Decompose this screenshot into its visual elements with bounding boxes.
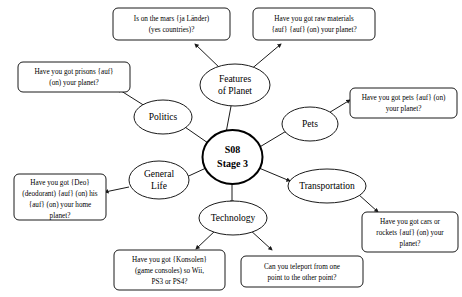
- leaf-text-raw-materials-line1: Have you got raw materials: [274, 15, 354, 23]
- edge-general-life-deodorant: [105, 187, 129, 192]
- branch-label-politics: Politics: [149, 112, 178, 122]
- branch-node-transportation[interactable]: Transportation: [288, 169, 366, 203]
- leaf-box-consoles[interactable]: Have you got {Konsolen} (game consoles) …: [114, 250, 225, 290]
- leaf-shape-mars-countries[interactable]: [113, 8, 230, 40]
- branch-shape-features-of-planet[interactable]: [200, 64, 270, 106]
- leaf-text-prisons-line2: (on) your planet?: [49, 79, 99, 87]
- leaf-box-cars-rockets[interactable]: Have you got cars or rockets {auf} (on) …: [362, 212, 458, 252]
- leaf-box-mars-countries[interactable]: Is on the mars {ja Länder) (yes countrie…: [113, 8, 230, 40]
- mind-map-canvas: S08 Stage 3 Features of Planet Politics …: [0, 0, 462, 297]
- branch-label-features-of-planet-line2: of Planet: [218, 86, 252, 96]
- leaf-text-consoles-line1: Have you got {Konsolen}: [132, 256, 207, 264]
- leaf-text-deodorant-line2: (deodorant) {auf} (on) his: [22, 190, 98, 198]
- branch-label-transportation: Transportation: [299, 181, 355, 191]
- branch-label-general-life-line1: General: [144, 169, 174, 179]
- leaf-text-prisons-line1: Have you got prisons {auf}: [34, 68, 113, 76]
- leaf-box-pets-question[interactable]: Have you got pets {auf} (on) your planet…: [350, 88, 457, 118]
- leaf-text-cars-rockets-line3: planet?: [400, 240, 421, 248]
- branch-node-general-life[interactable]: General Life: [129, 161, 189, 199]
- edge-center-transportation: [259, 168, 290, 181]
- edge-center-pets: [258, 130, 288, 148]
- leaf-shape-pets-question[interactable]: [350, 88, 457, 118]
- branch-label-technology: Technology: [211, 213, 256, 223]
- mind-map-svg: S08 Stage 3 Features of Planet Politics …: [0, 0, 462, 297]
- branch-node-politics[interactable]: Politics: [134, 100, 192, 134]
- branch-label-pets: Pets: [302, 119, 318, 129]
- leaf-text-raw-materials-line2: {auf} {auf} (on) your planet?: [271, 26, 356, 34]
- leaf-box-deodorant[interactable]: Have you got {Deo} (deodorant) {auf} (on…: [14, 174, 106, 220]
- center-node-shape[interactable]: [203, 130, 263, 184]
- leaf-text-deodorant-line4: planet?: [50, 212, 71, 220]
- branch-node-pets[interactable]: Pets: [282, 107, 338, 141]
- leaf-text-consoles-line3: PS3 or PS4?: [152, 278, 188, 286]
- branch-shape-general-life[interactable]: [129, 161, 189, 199]
- leaf-text-mars-countries-line2: (yes countries)?: [149, 26, 195, 34]
- leaf-text-deodorant-line1: Have you got {Deo}: [30, 179, 89, 187]
- leaf-text-consoles-line2: (game consoles) so Wii,: [135, 267, 204, 275]
- leaf-text-pets-question-line2: your planet?: [386, 105, 422, 113]
- leaf-box-raw-materials[interactable]: Have you got raw materials {auf} {auf} (…: [253, 8, 375, 40]
- branch-label-features-of-planet-line1: Features: [219, 74, 251, 84]
- leaf-text-pets-question-line1: Have you got pets {auf} (on): [362, 94, 446, 102]
- center-label-line1: S08: [225, 144, 241, 155]
- leaf-text-deodorant-line3: {auf} (on) your home: [29, 201, 92, 209]
- leaf-text-cars-rockets-line1: Have you got cars or: [380, 218, 440, 226]
- leaf-text-teleport-line2: point to the other point?: [267, 274, 336, 282]
- center-label-line2: Stage 3: [217, 158, 248, 169]
- branch-node-technology[interactable]: Technology: [199, 201, 267, 235]
- leaf-text-mars-countries-line1: Is on the mars {ja Länder): [134, 15, 210, 23]
- branch-label-general-life-line2: Life: [151, 181, 167, 191]
- edge-transportation-cars: [358, 194, 378, 212]
- leaf-text-teleport-line1: Can you teleport from one: [264, 263, 340, 271]
- leaf-shape-prisons[interactable]: [18, 62, 130, 92]
- leaf-box-teleport[interactable]: Can you teleport from one point to the o…: [241, 256, 363, 287]
- leaf-shape-teleport[interactable]: [241, 256, 363, 287]
- leaf-box-prisons[interactable]: Have you got prisons {auf} (on) your pla…: [18, 62, 130, 92]
- leaf-shape-raw-materials[interactable]: [253, 8, 375, 40]
- center-node[interactable]: S08 Stage 3: [203, 130, 263, 184]
- branch-node-features-of-planet[interactable]: Features of Planet: [200, 64, 270, 106]
- leaf-text-cars-rockets-line2: rockets {auf} (on) your: [376, 229, 444, 237]
